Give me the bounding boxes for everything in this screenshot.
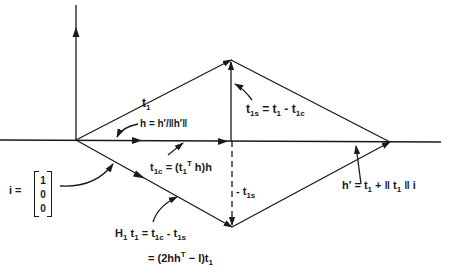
i-column-vector: 1 0 0	[34, 171, 52, 217]
H1t1-mid-arrowhead	[133, 171, 145, 179]
i-entry-3: 0	[35, 203, 51, 214]
h-pointer-arrow	[117, 124, 138, 137]
h-definition-label: h = h′/‖h′‖	[140, 119, 187, 129]
upper-right-edge	[231, 60, 390, 142]
i-entry-2: 0	[35, 189, 51, 200]
t1s-definition-label: t1s = t1 - t1c	[246, 103, 305, 118]
vertical-axis-arrowhead	[73, 27, 80, 37]
H1t1-vector	[76, 140, 232, 227]
t1c-definition-label: t1c = (t1T h)h	[150, 160, 212, 176]
i-vector-name: i =	[9, 185, 22, 196]
t1s-pointer-arrow	[235, 84, 252, 100]
t1c-arrowhead	[218, 138, 228, 145]
i-pointer-arrow	[60, 164, 113, 186]
H1t1-equation-line1: H1 t1 = t1c - t1s	[115, 228, 186, 242]
hprime-definition-label: h′ = t1 + ‖ t1 ‖ i	[342, 180, 416, 194]
neg-t1s-label: - t1s	[236, 186, 255, 200]
t1c-pointer-arrow	[168, 143, 183, 155]
householder-diagram	[0, 0, 449, 279]
t1-label: t1	[142, 97, 150, 112]
H1t1-pointer-arrow	[153, 197, 177, 222]
i-entry-1: 1	[35, 175, 51, 186]
h-arrowhead	[132, 137, 142, 144]
H1t1-equation-line2: = (2hhT − I)t1	[148, 251, 213, 267]
